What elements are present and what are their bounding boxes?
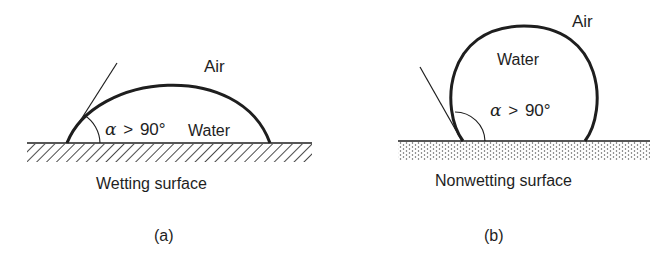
tangent-line-b	[420, 67, 462, 141]
air-label-a: Air	[204, 57, 225, 76]
water-label-b: Water	[497, 51, 540, 68]
air-label-b: Air	[572, 12, 593, 31]
wetting-surface-substrate	[27, 144, 312, 162]
panel-a: Air α > 90° Water Wetting surface (a)	[27, 57, 312, 244]
relation-b: >	[508, 101, 518, 120]
contact-angle-diagram: Air α > 90° Water Wetting surface (a) Ai…	[0, 0, 669, 255]
panel-b: Air Water α > 90° Nonwetting surface (b)	[398, 12, 650, 244]
surface-label-a: Wetting surface	[96, 175, 207, 192]
angle-label-b: α > 90°	[490, 100, 551, 120]
relation-a: >	[123, 120, 133, 139]
caption-b: (b)	[484, 227, 504, 244]
nonwetting-surface-substrate	[398, 142, 650, 160]
droplet-b	[451, 26, 597, 141]
angle-arc-a	[84, 115, 100, 143]
alpha-symbol-b: α	[490, 100, 502, 120]
angle-value-b: 90°	[525, 101, 551, 120]
caption-a: (a)	[154, 227, 174, 244]
angle-label-a: α > 90°	[105, 119, 166, 139]
water-label-a: Water	[188, 122, 231, 139]
alpha-symbol-a: α	[105, 119, 117, 139]
angle-value-a: 90°	[140, 120, 166, 139]
surface-label-b: Nonwetting surface	[435, 172, 572, 189]
